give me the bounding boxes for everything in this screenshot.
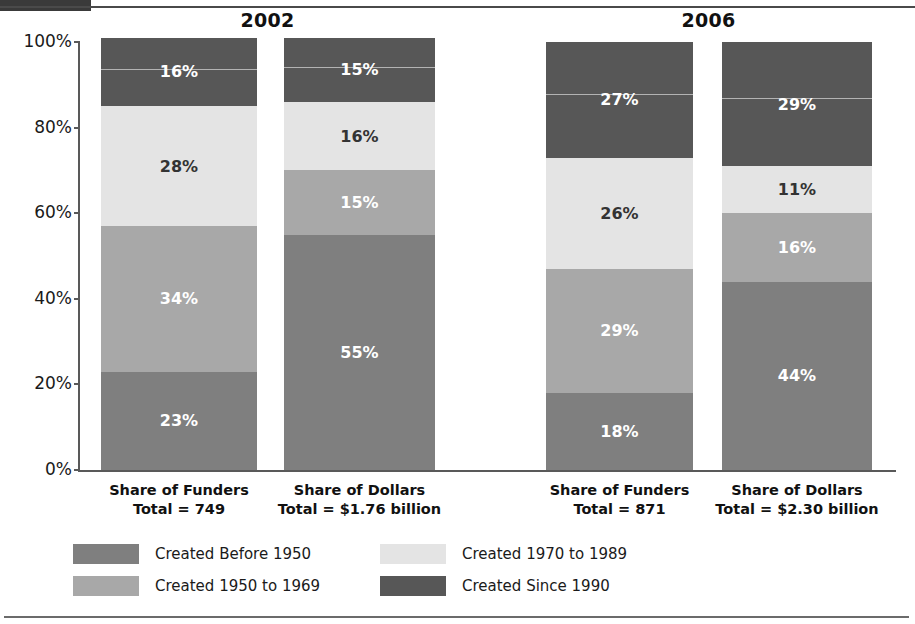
bar-segment[interactable]: 23% [101, 372, 257, 470]
bar-segment[interactable]: 18% [546, 393, 693, 470]
legend-swatch [73, 576, 139, 596]
y-axis-tick-20: 20% [4, 373, 72, 393]
bar-segment-label: 16% [778, 238, 816, 257]
bar-segment[interactable]: 16% [722, 213, 872, 281]
bar-segment-label: 16% [160, 62, 198, 81]
bar-segment-label: 18% [600, 422, 638, 441]
stacked-bar-2002-share-of-dollars[interactable]: 55%15%16%15% [284, 42, 435, 470]
y-axis-tick-mark [74, 127, 80, 129]
chart-legend: Created Before 1950Created 1950 to 1969C… [73, 541, 843, 603]
bar-segment-label: 26% [600, 204, 638, 223]
bar-segment[interactable]: 16% [101, 38, 257, 106]
bar-segment-label: 55% [340, 343, 378, 362]
stacked-bar-2002-share-of-funders[interactable]: 23%34%28%16% [101, 42, 257, 470]
bar-segment-label: 28% [160, 157, 198, 176]
gridline-artifact [722, 98, 872, 99]
bottom-divider-rule [4, 616, 909, 618]
legend-label: Created Before 1950 [155, 542, 311, 566]
gridline-artifact [284, 67, 435, 68]
y-axis-tick-mark [74, 212, 80, 214]
group-title-2002: 2002 [101, 9, 434, 31]
x-axis-label-2002-share-of-funders: Share of FundersTotal = 749 [73, 481, 285, 519]
bar-segment-label: 23% [160, 411, 198, 430]
bar-segment[interactable]: 15% [284, 170, 435, 234]
y-axis-tick-mark [74, 383, 80, 385]
x-axis-label-2006-share-of-funders: Share of FundersTotal = 871 [518, 481, 721, 519]
x-axis-label-total: Total = $2.30 billion [694, 500, 900, 519]
x-axis-label-title: Share of Dollars [694, 481, 900, 500]
x-axis-label-title: Share of Dollars [256, 481, 463, 500]
bar-segment[interactable]: 34% [101, 226, 257, 372]
legend-label: Created 1970 to 1989 [462, 542, 627, 566]
y-axis-tick-mark [74, 41, 80, 43]
bar-segment[interactable]: 15% [284, 38, 435, 102]
bar-segment[interactable]: 29% [722, 42, 872, 166]
bar-segment-label: 29% [600, 321, 638, 340]
y-axis-tick-80: 80% [4, 117, 72, 137]
bar-segment[interactable]: 16% [284, 102, 435, 170]
bar-segment-label: 11% [778, 180, 816, 199]
stacked-bar-2006-share-of-funders[interactable]: 18%29%26%27% [546, 42, 693, 470]
x-axis-label-total: Total = 871 [518, 500, 721, 519]
y-axis-tick-0: 0% [4, 459, 72, 479]
x-axis-label-total: Total = 749 [73, 500, 285, 519]
y-axis-tick-mark [74, 469, 80, 471]
bar-segment[interactable]: 11% [722, 166, 872, 213]
top-divider-rule [0, 6, 915, 8]
x-axis-label-title: Share of Funders [518, 481, 721, 500]
legend-label: Created 1950 to 1969 [155, 574, 320, 598]
bar-segment-label: 15% [340, 60, 378, 79]
y-axis-tick-labels: 100%80%60%40%20%0% [0, 0, 72, 624]
legend-swatch [380, 576, 446, 596]
x-axis-label-2006-share-of-dollars: Share of DollarsTotal = $2.30 billion [694, 481, 900, 519]
gridline-artifact [546, 94, 693, 95]
x-axis-label-2002-share-of-dollars: Share of DollarsTotal = $1.76 billion [256, 481, 463, 519]
x-axis-label-title: Share of Funders [73, 481, 285, 500]
group-title-2006: 2006 [546, 9, 871, 31]
stacked-bar-2006-share-of-dollars[interactable]: 44%16%11%29% [722, 42, 872, 470]
bar-segment-label: 16% [340, 127, 378, 146]
bar-segment-label: 44% [778, 366, 816, 385]
plot-area: 23%34%28%16%55%15%16%15%18%29%26%27%44%1… [78, 42, 896, 471]
y-axis-tick-100: 100% [4, 31, 72, 51]
y-axis-tick-60: 60% [4, 202, 72, 222]
bar-segment[interactable]: 44% [722, 282, 872, 470]
bar-segment[interactable]: 26% [546, 158, 693, 269]
legend-label: Created Since 1990 [462, 574, 610, 598]
legend-swatch [380, 544, 446, 564]
legend-swatch [73, 544, 139, 564]
bar-segment[interactable]: 29% [546, 269, 693, 393]
bar-segment[interactable]: 55% [284, 235, 435, 470]
gridline-artifact [101, 69, 257, 70]
bar-segment[interactable]: 27% [546, 42, 693, 158]
bar-segment-label: 34% [160, 289, 198, 308]
x-axis-label-total: Total = $1.76 billion [256, 500, 463, 519]
y-axis-tick-40: 40% [4, 288, 72, 308]
bar-segment-label: 15% [340, 193, 378, 212]
bar-segment[interactable]: 28% [101, 106, 257, 226]
y-axis-tick-mark [74, 298, 80, 300]
